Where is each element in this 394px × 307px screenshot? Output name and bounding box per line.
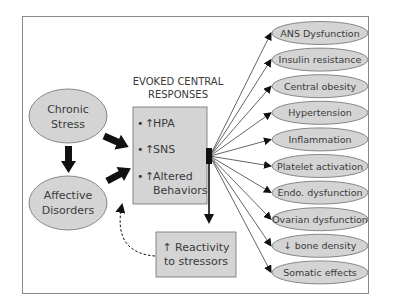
affective-disorders-label-1: Affective (44, 189, 93, 202)
thick-arrow-chronic-to-affective (61, 146, 76, 173)
central-item-label: Altered (153, 170, 193, 183)
chronic-stress-label-2: Stress (51, 118, 85, 131)
affective-disorders-node: Affective Disorders (29, 176, 107, 230)
fan-out-connector (206, 148, 212, 164)
affective-disorders-ellipse (29, 176, 107, 230)
outcome-node-somatic-effects: Somatic effects (272, 261, 368, 284)
outcome-label: Hypertension (288, 107, 352, 118)
diagram-canvas: Chronic Stress Affective Disorders EVOKE… (0, 0, 394, 307)
thick-arrow-chronic-to-central (101, 129, 132, 155)
chronic-stress-ellipse (29, 89, 107, 143)
central-item-label: SNS (153, 143, 175, 156)
outcome-label: Central obesity (284, 81, 357, 92)
outcome-node-hypertension: Hypertension (272, 101, 368, 124)
central-title-line-2: RESPONSES (148, 89, 208, 100)
reactivity-label-2: to stressors (164, 255, 228, 268)
outcome-label: Somatic effects (283, 267, 357, 278)
dashed-feedback-arrow (120, 205, 155, 256)
outcome-label: Ovarian dysfunction (272, 214, 368, 225)
outcome-node-bone-density: ↓ bone density (272, 234, 368, 257)
outcome-node-ans-dysfunction: ANS Dysfunction (272, 22, 368, 45)
chronic-stress-node: Chronic Stress (29, 89, 107, 143)
bullet: • (137, 117, 144, 130)
bullet: • (137, 170, 144, 183)
outcome-list: ANS DysfunctionInsulin resistanceCentral… (272, 22, 368, 284)
outcome-node-inflammation: Inflammation (272, 128, 368, 151)
fan-arrow-inflammation (212, 139, 271, 155)
outcome-label: ↓ bone density (284, 240, 357, 251)
reactivity-label-1: ↑ Reactivity (162, 241, 230, 254)
outcome-node-endo-dysfunction: Endo. dysfunction (272, 181, 368, 204)
affective-disorders-label-2: Disorders (42, 204, 95, 217)
central-item-sns: • ↑ SNS (137, 143, 175, 156)
fan-arrow-ovarian-dysfunction (212, 158, 271, 219)
fan-arrow-platelet-activation (212, 156, 271, 166)
fan-arrow-central-obesity (212, 86, 271, 154)
outcome-label: ANS Dysfunction (280, 28, 359, 39)
outcome-node-central-obesity: Central obesity (272, 75, 368, 98)
fan-arrow-insulin-resistance (212, 60, 271, 153)
outcome-node-ovarian-dysfunction: Ovarian dysfunction (272, 208, 368, 231)
central-item-label: HPA (153, 117, 175, 130)
thick-arrow-affective-to-central (103, 161, 134, 188)
central-item-label-2: Behaviors (153, 184, 208, 197)
outcome-label: Inflammation (288, 134, 351, 145)
outcome-label: Platelet activation (277, 161, 363, 172)
central-item-hpa: • ↑ HPA (137, 117, 175, 130)
outcome-node-platelet-activation: Platelet activation (272, 155, 368, 178)
chronic-stress-label-1: Chronic (47, 103, 89, 116)
fan-arrow-endo-dysfunction (212, 157, 271, 192)
central-title-line-1: EVOKED CENTRAL (133, 76, 224, 87)
outcome-label: Endo. dysfunction (277, 187, 362, 198)
outcome-label: Insulin resistance (279, 54, 362, 65)
outcome-node-insulin-resistance: Insulin resistance (272, 48, 368, 71)
bullet: • (137, 143, 144, 156)
